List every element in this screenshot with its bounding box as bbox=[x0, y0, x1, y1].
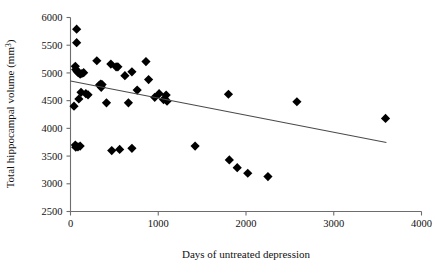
x-tick-label: 3000 bbox=[323, 218, 344, 229]
data-point-marker bbox=[225, 155, 234, 164]
data-point-marker bbox=[72, 38, 81, 47]
x-tick-label: 0 bbox=[68, 218, 73, 229]
y-axis-ticks bbox=[67, 18, 71, 212]
y-tick-label: 4000 bbox=[42, 123, 63, 134]
y-axis-title: Total hippocampal volume (mm3) bbox=[4, 39, 18, 188]
data-point-marker bbox=[224, 90, 233, 99]
x-axis-tick-labels: 01000200030004000 bbox=[68, 218, 432, 229]
data-point-marker bbox=[381, 114, 390, 123]
y-tick-label: 2500 bbox=[42, 206, 63, 217]
y-axis-title-main: Total hippocampal volume (mm bbox=[4, 47, 17, 189]
y-axis-title-tail: ) bbox=[4, 39, 17, 43]
data-points-group bbox=[69, 25, 390, 182]
data-point-marker bbox=[102, 98, 111, 107]
chart-canvas: 25003000350040004500500055006000 0100020… bbox=[0, 0, 443, 276]
data-point-marker bbox=[144, 75, 153, 84]
x-tick-label: 4000 bbox=[411, 218, 432, 229]
scatter-plot-figure: 25003000350040004500500055006000 0100020… bbox=[0, 0, 443, 276]
y-tick-label: 5000 bbox=[42, 68, 63, 79]
y-axis-title-text: Total hippocampal volume (mm3) bbox=[4, 39, 18, 188]
data-point-marker bbox=[191, 141, 200, 150]
data-point-marker bbox=[127, 144, 136, 153]
data-point-marker bbox=[292, 97, 301, 106]
data-point-marker bbox=[107, 146, 116, 155]
data-point-marker bbox=[92, 56, 101, 65]
x-axis-title: Days of untreated depression bbox=[182, 248, 310, 260]
x-tick-label: 1000 bbox=[148, 218, 169, 229]
x-axis-ticks bbox=[71, 212, 422, 216]
y-tick-label: 5500 bbox=[42, 40, 63, 51]
data-point-marker bbox=[233, 163, 242, 172]
y-tick-label: 3000 bbox=[42, 178, 63, 189]
axis-group bbox=[71, 18, 422, 212]
data-point-marker bbox=[115, 145, 124, 154]
data-point-marker bbox=[263, 172, 272, 181]
data-point-marker bbox=[72, 25, 81, 34]
y-axis-tick-labels: 25003000350040004500500055006000 bbox=[42, 12, 63, 217]
y-tick-label: 6000 bbox=[42, 12, 63, 23]
data-point-marker bbox=[243, 169, 252, 178]
y-tick-label: 4500 bbox=[42, 95, 63, 106]
data-point-marker bbox=[124, 98, 133, 107]
data-point-marker bbox=[141, 57, 150, 66]
x-tick-label: 2000 bbox=[236, 218, 257, 229]
y-tick-label: 3500 bbox=[42, 151, 63, 162]
